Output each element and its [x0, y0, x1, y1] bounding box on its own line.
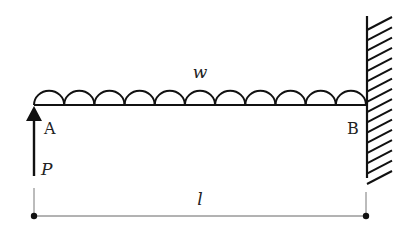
load-hump	[125, 91, 155, 105]
hatch-line	[367, 150, 392, 163]
point-label-b: B	[347, 119, 359, 138]
hatch-line	[367, 79, 392, 92]
hatch-line	[367, 58, 392, 71]
hatch-line	[367, 38, 392, 51]
dimension-dot-left	[31, 213, 37, 219]
load-hump	[215, 91, 245, 105]
hatch-line	[367, 17, 392, 30]
hatch-line	[367, 140, 392, 153]
fixed-wall-support	[367, 16, 392, 184]
force-arrow-p	[26, 106, 42, 176]
distributed-load	[34, 91, 366, 105]
hatch-line	[367, 68, 392, 81]
beam-diagram: w A B P l	[0, 0, 415, 234]
load-label-w: w	[193, 62, 208, 82]
load-hump	[245, 91, 275, 105]
hatch-line	[367, 48, 392, 61]
load-hump	[155, 91, 185, 105]
hatch-line	[367, 171, 392, 184]
load-hump	[185, 91, 215, 105]
hatch-line	[367, 27, 392, 40]
hatch-line	[367, 89, 392, 102]
hatch-line	[367, 109, 392, 122]
hatch-line	[367, 161, 392, 174]
force-label-p: P	[40, 159, 53, 179]
load-hump	[64, 91, 94, 105]
point-label-a: A	[43, 119, 56, 138]
load-hump	[336, 91, 366, 105]
length-label-l: l	[197, 189, 202, 209]
load-hump	[275, 91, 305, 105]
arrow-up-icon	[26, 106, 42, 121]
load-hump	[306, 91, 336, 105]
wall-hatching	[367, 17, 392, 184]
dimension-dot-right	[363, 213, 369, 219]
hatch-line	[367, 130, 392, 143]
hatch-line	[367, 120, 392, 133]
load-hump	[34, 91, 64, 105]
load-hump	[94, 91, 124, 105]
hatch-line	[367, 99, 392, 112]
